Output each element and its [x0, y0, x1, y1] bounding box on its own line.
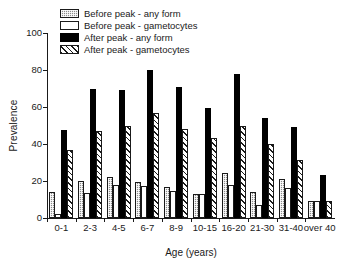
x-axis-tick	[104, 218, 105, 222]
bar	[67, 150, 73, 218]
bar-group: 16-20	[219, 33, 248, 218]
legend-swatch-icon	[60, 21, 79, 30]
x-axis-tick	[76, 218, 77, 222]
bar-group: 2-3	[76, 33, 105, 218]
x-axis-category-label: 6-7	[141, 223, 155, 233]
y-axis-tick-label: 40	[31, 139, 42, 149]
legend-item: Before peak - gametocytes	[60, 20, 198, 31]
x-axis-category-label: 8-9	[169, 223, 183, 233]
x-axis-tick	[133, 218, 134, 222]
y-axis-tick-label: 20	[31, 176, 42, 186]
bar	[240, 126, 246, 218]
bar	[297, 160, 303, 218]
bar	[326, 201, 332, 218]
y-axis-label-text: Prevalence	[8, 99, 19, 151]
bar-groups: 0-12-34-56-78-910-1516-2021-3031-40over …	[47, 33, 334, 218]
x-axis-category-label: 31-40	[279, 223, 303, 233]
y-axis-tick-label: 100	[26, 28, 42, 38]
bar-group: 10-15	[191, 33, 220, 218]
x-axis-tick	[162, 218, 163, 222]
y-axis-tick-label: 60	[31, 102, 42, 112]
y-axis-tick-label: 0	[37, 213, 42, 223]
x-axis-category-label: 16-20	[221, 223, 245, 233]
prevalence-by-age-bar-chart: Before peak - any formBefore peak - game…	[0, 0, 348, 268]
x-axis-tick	[191, 218, 192, 222]
x-axis-category-label: 2-3	[83, 223, 97, 233]
x-axis-category-label: 10-15	[193, 223, 217, 233]
x-axis-category-label: 4-5	[112, 223, 126, 233]
y-axis-tick-label: 80	[31, 65, 42, 75]
bar	[153, 113, 159, 218]
bar	[268, 144, 274, 218]
x-axis-tick	[47, 218, 48, 222]
x-axis-category-label: 0-1	[54, 223, 68, 233]
bar-group: 31-40	[277, 33, 306, 218]
legend-label: Before peak - gametocytes	[84, 21, 198, 31]
legend-label: Before peak - any form	[84, 9, 181, 19]
x-axis-tick	[219, 218, 220, 222]
bar-group: 8-9	[162, 33, 191, 218]
bar-group: over 40	[305, 33, 334, 218]
y-axis-label: Prevalence	[6, 33, 20, 218]
plot-area: 020406080100 0-12-34-56-78-910-1516-2021…	[47, 33, 334, 218]
legend-item: Before peak - any form	[60, 8, 198, 19]
x-axis-category-label: 21-30	[250, 223, 274, 233]
bar-group: 21-30	[248, 33, 277, 218]
bar	[211, 138, 217, 218]
x-axis-category-label: over 40	[304, 223, 336, 233]
bar	[96, 131, 102, 218]
bar	[182, 129, 188, 218]
bar	[125, 126, 131, 218]
x-axis-tick	[248, 218, 249, 222]
bar-group: 0-1	[47, 33, 76, 218]
x-axis-label: Age (years)	[47, 247, 335, 258]
bar-group: 6-7	[133, 33, 162, 218]
x-axis-tick	[277, 218, 278, 222]
legend-swatch-icon	[60, 9, 79, 18]
bar-group: 4-5	[104, 33, 133, 218]
